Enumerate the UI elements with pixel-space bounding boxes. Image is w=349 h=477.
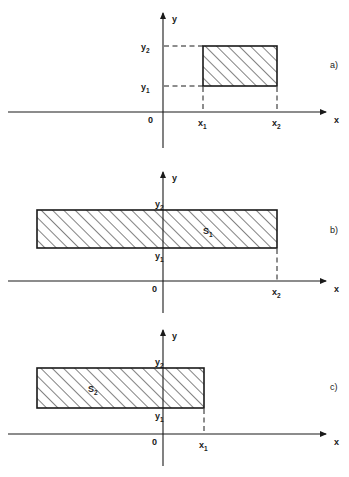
panel-c-x1-tick-label: x1	[199, 440, 208, 452]
panel-a-x-axis-label: x	[334, 115, 339, 125]
panel-c-hatched-rectangle	[37, 368, 204, 408]
panel-a-x1-tick-label: x1	[198, 118, 207, 130]
panel-c-y-axis-label: y	[172, 331, 177, 341]
figure-canvas: y x 0 y2 y1 x1 x2 a) y x	[0, 0, 349, 477]
panel-c: y x 0 y2 y1 x1 S2 c)	[8, 330, 339, 466]
panel-a-y2-tick-label: y2	[141, 42, 150, 54]
panel-a-label: a)	[330, 60, 338, 70]
panel-b-label: b)	[330, 225, 338, 235]
figure-container: y x 0 y2 y1 x1 x2 a) y x	[0, 0, 349, 477]
panel-a-y1-tick-label: y1	[141, 82, 150, 94]
panel-b-x-axis-label: x	[334, 284, 339, 294]
panel-b-hatched-rectangle	[37, 210, 277, 248]
panel-a-y-axis-label: y	[172, 14, 177, 24]
panel-b: y x 0 y2 y1 x2 S1 b)	[8, 172, 339, 313]
panel-a-hatched-rectangle	[203, 46, 277, 86]
panel-c-x-axis-label: x	[334, 437, 339, 447]
panel-a-origin-label: 0	[148, 115, 153, 125]
panel-a-x2-tick-label: x2	[272, 118, 281, 130]
panel-a: y x 0 y2 y1 x1 x2 a)	[8, 13, 339, 148]
panel-b-y-axis-label: y	[172, 173, 177, 183]
panel-b-x2-tick-label: x2	[272, 287, 281, 299]
panel-c-label: c)	[330, 382, 338, 392]
panel-b-origin-label: 0	[152, 284, 157, 294]
panel-c-origin-label: 0	[152, 437, 157, 447]
